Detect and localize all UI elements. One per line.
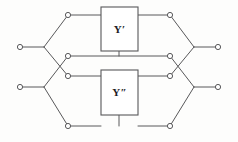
wire-branch-right-bottom-down xyxy=(170,87,194,126)
block-y-prime-label: Y′ xyxy=(114,23,125,35)
node-mid-upper-right xyxy=(167,53,172,58)
node-mid-upper-left xyxy=(65,53,70,58)
node-mid-lower-right xyxy=(167,73,172,78)
node-bottom-right xyxy=(167,123,172,128)
block-y-double-prime[interactable]: Y″ xyxy=(101,70,138,115)
terminal-left-bottom[interactable] xyxy=(17,84,22,89)
terminal-left-top[interactable] xyxy=(17,44,22,49)
terminal-right-top[interactable] xyxy=(215,44,220,49)
node-bottom-left xyxy=(65,123,70,128)
node-mid-lower-left xyxy=(65,73,70,78)
lattice-network-svg: Y′ Y″ xyxy=(0,0,238,142)
wire-branch-left-top-up xyxy=(44,15,68,47)
wire-branch-right-top-up xyxy=(170,15,194,47)
wire-branch-left-bottom-down xyxy=(44,87,68,126)
node-top-left xyxy=(65,12,70,17)
node-top-right xyxy=(167,12,172,17)
block-y-prime[interactable]: Y′ xyxy=(101,7,138,51)
terminal-right-bottom[interactable] xyxy=(215,84,220,89)
block-y-double-prime-label: Y″ xyxy=(112,86,126,98)
circuit-diagram-canvas: Y′ Y″ xyxy=(0,0,238,142)
